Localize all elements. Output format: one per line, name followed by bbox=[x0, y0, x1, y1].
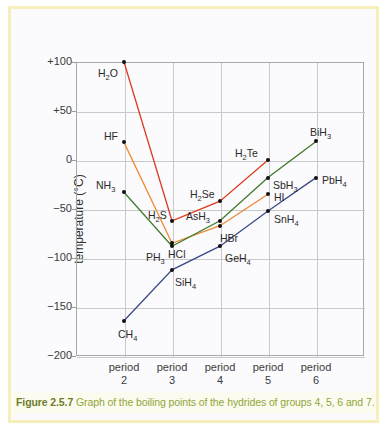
data-point bbox=[266, 192, 270, 196]
data-point-label: CH4 bbox=[118, 328, 137, 343]
data-point-label: HBr bbox=[220, 232, 238, 244]
data-point bbox=[266, 176, 270, 180]
y-axis: temperature (°C) +100+500−50−100−150−200 bbox=[20, 62, 72, 356]
data-point bbox=[266, 158, 270, 162]
grid-line-vertical bbox=[317, 63, 318, 357]
grid-line-vertical bbox=[221, 63, 222, 357]
grid-line-vertical bbox=[125, 63, 126, 357]
data-point bbox=[218, 199, 222, 203]
caption-body-text: Graph of the boiling points of the hydri… bbox=[76, 396, 375, 408]
data-point bbox=[170, 268, 174, 272]
data-point-label: H2S bbox=[148, 209, 167, 224]
data-point-label: PH3 bbox=[146, 251, 165, 266]
caption-figure-number: Figure 2.5.7 bbox=[16, 396, 73, 408]
y-axis-tick-label: +50 bbox=[26, 104, 72, 116]
data-point bbox=[218, 244, 222, 248]
data-point-label: H2Se bbox=[190, 188, 215, 203]
figure-container: temperature (°C) +100+500−50−100−150−200… bbox=[0, 0, 391, 435]
data-point-label: SbH3 bbox=[273, 179, 298, 194]
data-point-label: NH3 bbox=[96, 179, 115, 194]
y-axis-tick-label: +100 bbox=[26, 55, 72, 67]
data-point bbox=[218, 219, 222, 223]
y-axis-tick-label: −150 bbox=[26, 300, 72, 312]
x-axis-tick-label-line2: 6 bbox=[286, 374, 346, 387]
y-axis-tick-label: −200 bbox=[26, 349, 72, 361]
data-point-label: BiH3 bbox=[310, 126, 331, 141]
data-point bbox=[122, 190, 126, 194]
data-point bbox=[266, 209, 270, 213]
y-axis-tick-mark bbox=[72, 356, 76, 357]
data-point-label: HF bbox=[104, 130, 118, 142]
figure-caption: Figure 2.5.7 Graph of the boiling points… bbox=[16, 396, 374, 408]
data-point-label: SiH4 bbox=[175, 276, 196, 291]
y-axis-tick-label: 0 bbox=[26, 153, 72, 165]
data-point-label: SnH4 bbox=[274, 213, 299, 228]
data-point bbox=[170, 244, 174, 248]
data-point bbox=[218, 224, 222, 228]
y-axis-tick-label: −100 bbox=[26, 251, 72, 263]
grid-line-vertical bbox=[173, 63, 174, 357]
data-point bbox=[314, 176, 318, 180]
data-point bbox=[122, 140, 126, 144]
plot-area bbox=[76, 62, 364, 356]
data-point-label: PbH4 bbox=[322, 174, 347, 189]
data-point-label: H2O bbox=[98, 67, 118, 82]
data-point-label: H2Te bbox=[235, 147, 258, 162]
x-axis-tick-label-line1: period bbox=[286, 361, 346, 374]
y-axis-tick-label: −50 bbox=[26, 202, 72, 214]
grid-line-horizontal bbox=[77, 357, 365, 358]
data-point-label: HCl bbox=[168, 248, 186, 260]
data-point-label: AsH3 bbox=[186, 210, 210, 225]
data-point bbox=[170, 219, 174, 223]
data-point-label: GeH4 bbox=[225, 252, 251, 267]
x-axis-tick-label: period6 bbox=[286, 361, 346, 387]
data-point bbox=[122, 319, 126, 323]
data-point bbox=[122, 60, 126, 64]
